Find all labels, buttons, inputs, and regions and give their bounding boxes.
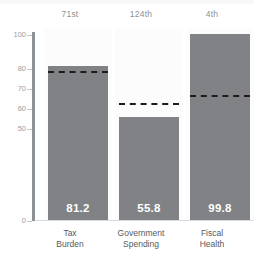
y-axis-spine <box>32 32 35 221</box>
category-label-tax-burden-line1: Tax <box>34 228 106 239</box>
top-band <box>0 0 254 4</box>
reference-line-fiscal-health <box>190 95 250 97</box>
y-tick-mark-80 <box>27 69 32 70</box>
bar-fiscal-health[interactable] <box>190 34 250 220</box>
y-tick-label-60: 60 <box>0 105 26 113</box>
reference-line-government-spending <box>119 103 179 105</box>
category-label-government-spending-line1: Government <box>105 228 177 239</box>
category-label-row: Tax Burden Government Spending Fiscal He… <box>38 228 254 258</box>
y-tick-mark-60 <box>27 109 32 110</box>
bar-value-government-spending: 55.8 <box>119 202 179 215</box>
y-tick-mark-70 <box>27 89 32 90</box>
rank-label-row: 71st 124th 4th <box>38 8 254 24</box>
category-label-government-spending-line2: Spending <box>105 239 177 250</box>
y-tick-label-0: 0 <box>0 217 26 225</box>
x-axis-baseline <box>35 220 254 221</box>
category-label-tax-burden-line2: Burden <box>34 239 106 250</box>
y-tick-label-70: 70 <box>0 85 26 93</box>
rank-label-fiscal-health: 4th <box>176 8 248 20</box>
category-label-fiscal-health-line1: Fiscal <box>176 228 248 239</box>
reference-line-tax-burden <box>48 71 108 73</box>
bar-tax-burden[interactable] <box>48 66 108 220</box>
bar-chart: 71st 124th 4th 100 80 70 60 50 0 81.2 55… <box>0 0 254 263</box>
bar-value-fiscal-health: 99.8 <box>190 202 250 215</box>
bar-value-tax-burden: 81.2 <box>48 202 108 215</box>
category-label-fiscal-health: Fiscal Health <box>176 228 248 250</box>
y-tick-label-50: 50 <box>0 125 26 133</box>
category-label-government-spending: Government Spending <box>105 228 177 250</box>
y-tick-label-100: 100 <box>0 31 26 39</box>
category-label-tax-burden: Tax Burden <box>34 228 106 250</box>
category-label-fiscal-health-line2: Health <box>176 239 248 250</box>
y-tick-mark-50 <box>27 129 32 130</box>
y-tick-mark-100 <box>27 35 32 36</box>
y-tick-label-80: 80 <box>0 65 26 73</box>
y-tick-mark-0 <box>27 221 32 222</box>
rank-label-tax-burden: 71st <box>34 8 106 20</box>
rank-label-government-spending: 124th <box>105 8 177 20</box>
